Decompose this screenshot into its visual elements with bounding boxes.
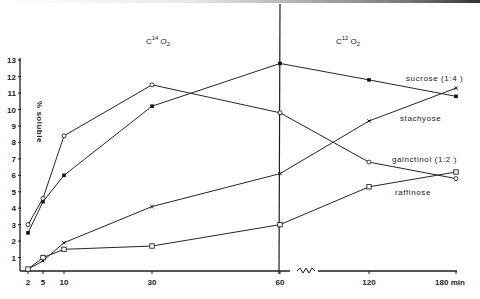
marker-open-circle-icon [26,223,30,227]
y-tick-label: 11 [8,89,17,98]
series-label-galactinol: galnctinol (1:2 ) [392,155,457,164]
x-tick-label: 120 [362,278,376,287]
marker-filled-square-icon [367,78,371,82]
marker-filled-square-icon [150,104,154,108]
marker-open-circle-icon [367,160,371,164]
marker-open-circle-icon [62,134,66,138]
axes: 1234567891011121325103060120180 min [7,4,465,287]
y-tick-label: 13 [7,56,16,65]
y-tick-label: 5 [12,188,17,197]
x-tick-label: 10 [60,278,69,287]
y-tick-label: 1 [12,254,17,263]
series-label-sucrose: sucrose (1:4 ) [406,74,463,83]
y-tick-label: 10 [7,106,16,115]
x-tick-label: 180 min [435,278,465,287]
phase-label-c14o2: C14O2 [146,35,171,47]
series-line-raffinose [28,172,456,269]
x-tick-label: 2 [26,278,31,287]
x-tick-label: 5 [41,278,46,287]
y-tick-label: 6 [12,171,17,180]
phase-label-c12o2: C12O2 [336,35,361,47]
marker-open-circle-icon [150,83,154,87]
x-tick-label: 30 [148,278,157,287]
y-tick-label: 4 [12,204,17,213]
marker-open-square-icon [454,170,458,174]
x-tick-label: 60 [276,278,285,287]
labels-group: % soluble C14O2 C12O2 sucrose (1:4 ) sta… [35,35,463,197]
y-tick-label: 3 [12,221,17,230]
axis-break-icon [297,268,315,273]
series-line-sucrose [28,63,456,232]
y-tick-label: 9 [12,122,17,131]
line-chart: 1234567891011121325103060120180 min % so… [0,0,480,299]
marker-open-square-icon [150,244,154,248]
series-line-stachyose [28,88,456,269]
marker-open-circle-icon [454,177,458,181]
marker-open-square-icon [41,255,45,259]
marker-filled-square-icon [454,95,458,99]
y-tick-label: 7 [12,155,17,164]
marker-filled-square-icon [62,174,66,178]
series-label-raffinose: raffinose [395,188,431,197]
marker-open-square-icon [278,222,282,226]
marker-filled-square-icon [26,231,30,235]
y-tick-label: 8 [12,138,17,147]
series-group [26,62,458,272]
phase-divider-line [279,4,280,274]
y-tick-label: 2 [12,237,17,246]
series-label-stachyose: stachyose [400,114,441,123]
marker-open-circle-icon [278,111,282,115]
marker-open-square-icon [62,247,66,251]
marker-filled-square-icon [278,62,282,66]
y-tick-label: 12 [7,73,16,82]
y-axis-label: % soluble [35,101,44,143]
marker-open-square-icon [367,185,371,189]
marker-open-square-icon [26,267,30,271]
marker-open-circle-icon [41,196,45,200]
